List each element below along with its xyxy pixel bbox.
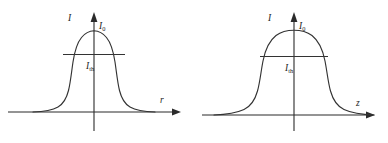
peak-intensity-label-right: I0 xyxy=(298,21,305,32)
y-axis-label-right: I xyxy=(267,13,272,23)
figure-container: I r I0 Ith I z I0 Ith xyxy=(0,0,388,143)
peak-label-sub-left: 0 xyxy=(102,25,105,32)
chart-panel-left: I r I0 Ith xyxy=(0,0,194,143)
threshold-label-sub-right: th xyxy=(288,67,294,74)
peak-intensity-label-left: I0 xyxy=(98,21,105,32)
x-axis-arrowhead-left xyxy=(172,109,181,116)
y-axis-arrowhead-right xyxy=(291,12,298,22)
y-axis-arrowhead-left xyxy=(91,12,98,22)
y-axis-label-left: I xyxy=(67,13,72,23)
threshold-intensity-label-right: Ith xyxy=(284,63,294,74)
x-axis-label-left: r xyxy=(160,95,164,105)
x-axis-label-right: z xyxy=(355,98,360,108)
chart-panel-right: I z I0 Ith xyxy=(194,0,388,143)
peak-label-sub-right: 0 xyxy=(302,25,305,32)
threshold-label-sub-left: th xyxy=(89,65,95,72)
